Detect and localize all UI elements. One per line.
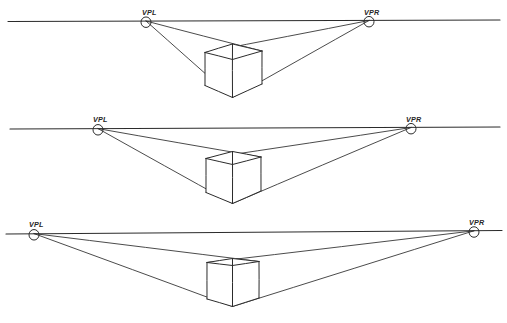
diagram-narrow-vanishing-point-spacing: VPLVPR xyxy=(8,8,500,98)
vpl-label: VPL xyxy=(93,115,108,124)
diagram-wide-vanishing-point-spacing: VPLVPR xyxy=(6,218,502,307)
convergence-line-from-vpr xyxy=(233,231,475,307)
vpr-label: VPR xyxy=(406,115,422,124)
vpl-label: VPL xyxy=(29,220,44,229)
cube-left-face xyxy=(205,44,233,98)
convergence-line-from-vpr xyxy=(207,231,474,263)
vpr-label: VPR xyxy=(469,218,485,227)
convergence-line-from-vpl xyxy=(34,234,259,262)
perspective-figure: VPLVPRVPLVPRVPLVPR xyxy=(0,0,507,323)
convergence-line-from-vpl xyxy=(34,234,233,307)
horizon-line xyxy=(6,231,502,235)
horizon-line xyxy=(8,20,500,22)
vpl-label: VPL xyxy=(142,8,157,17)
horizon-line xyxy=(10,127,500,129)
vpr-label: VPR xyxy=(364,8,380,17)
diagram-medium-vanishing-point-spacing: VPLVPR xyxy=(10,115,500,204)
vpl-marker-circle[interactable] xyxy=(93,125,103,136)
diagram-layer: VPLVPRVPLVPRVPLVPR xyxy=(6,8,502,307)
vpr-marker-circle[interactable] xyxy=(364,16,374,27)
cube-right-face xyxy=(233,152,262,204)
perspective-diagram-canvas: VPLVPRVPLVPRVPLVPR xyxy=(0,0,507,323)
cube-left-face xyxy=(207,259,233,307)
